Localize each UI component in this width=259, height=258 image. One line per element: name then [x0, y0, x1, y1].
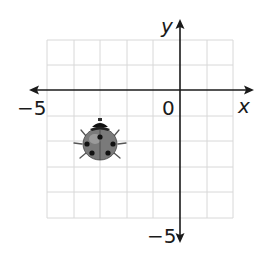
origin-label: 0 [162, 98, 175, 118]
y-min-label: −5 [147, 226, 176, 246]
x-axis [29, 86, 254, 95]
x-axis-label: x [238, 96, 250, 116]
y-axis-label: y [161, 16, 173, 36]
ladybug-icon [74, 118, 126, 160]
x-min-label: −5 [17, 98, 46, 118]
coordinate-plane [0, 0, 259, 258]
grid [47, 40, 233, 218]
y-axis [176, 19, 185, 243]
